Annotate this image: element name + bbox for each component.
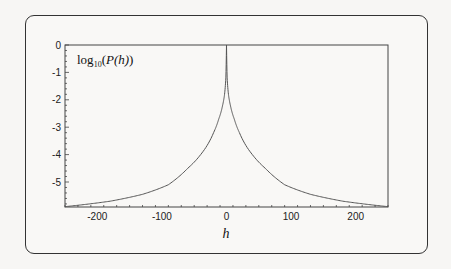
x-tick-label: 0 <box>224 211 230 222</box>
x-tick-label: -200 <box>87 211 107 222</box>
series-line <box>65 45 388 207</box>
y-tick-label: -2 <box>52 94 61 105</box>
y-tick-label: -1 <box>52 67 61 78</box>
x-tick-label: 200 <box>347 211 364 222</box>
series-annotation: log10(P(h)) <box>77 52 133 69</box>
chart: 0-1-2-3-4-5 -200-1000100200 log10(P(h)) … <box>0 0 451 269</box>
y-tick-label: -4 <box>52 149 61 160</box>
x-tick-label: 100 <box>283 211 300 222</box>
y-tick-label: -3 <box>52 122 61 133</box>
x-axis-label: h <box>223 226 230 241</box>
x-tick-label: -100 <box>152 211 172 222</box>
y-tick-label: -5 <box>52 177 61 188</box>
y-tick-label: 0 <box>55 40 61 51</box>
